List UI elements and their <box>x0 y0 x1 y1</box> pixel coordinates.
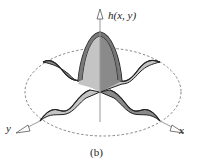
vertical-axis-arrow <box>97 9 103 19</box>
y-axis-arrow <box>16 125 30 133</box>
slice-front-left <box>40 90 100 121</box>
figure-caption: (b) <box>90 146 103 158</box>
x-axis-label: x <box>179 124 184 136</box>
y-axis-label: y <box>6 122 11 134</box>
vertical-axis-label: h(x, y) <box>108 9 136 21</box>
surface-diagram <box>0 0 200 165</box>
slice-front-right <box>100 90 160 121</box>
figure: h(x, y) x y (b) <box>0 0 200 165</box>
